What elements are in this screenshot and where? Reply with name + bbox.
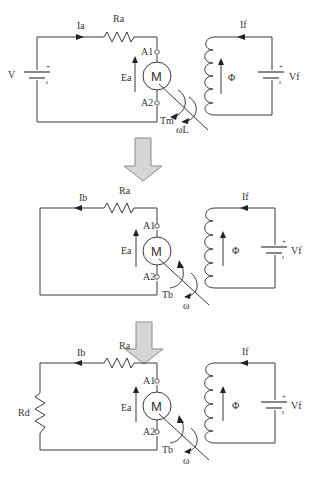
torque-arc-icon (176, 90, 185, 116)
label-field-current: If (242, 346, 249, 357)
label-motor: M (151, 69, 162, 84)
armature-resistor (104, 32, 134, 42)
label-braking-resistor: Rd (18, 407, 30, 418)
terminal-a2 (155, 101, 159, 105)
label-armature-resistor: Ra (119, 185, 131, 196)
label-source-plus: + (46, 63, 50, 71)
label-torque: Tb (162, 444, 173, 455)
label-flux: Φ (232, 245, 239, 256)
label-source-voltage: V (8, 69, 16, 80)
stage-braking: Ib Ra Ea A1 A2 M Tb ω If Φ Vf + ı (40, 185, 302, 311)
terminal-a1 (155, 379, 159, 383)
label-field-plus: + (282, 238, 286, 246)
current-arrow-icon (74, 205, 82, 211)
label-terminal-a1: A1 (143, 220, 155, 231)
label-field-source: Vf (291, 245, 302, 256)
label-emf: Ea (121, 72, 132, 83)
label-speed: ω (183, 300, 190, 311)
label-flux: Φ (232, 400, 239, 411)
label-field-source: Vf (289, 71, 300, 82)
label-terminal-a1: A1 (143, 375, 155, 386)
label-terminal-a2: A2 (143, 426, 155, 437)
label-emf: Ea (121, 402, 132, 413)
terminal-a2 (155, 430, 159, 434)
label-armature-current: Ib (79, 192, 87, 203)
label-field-minus: ı (282, 253, 284, 261)
label-field-minus: ı (279, 78, 281, 86)
label-field-plus: + (279, 63, 283, 71)
label-field-minus: ı (282, 408, 284, 416)
label-terminal-a1: A1 (141, 46, 153, 57)
current-arrow-icon (76, 34, 84, 40)
label-motor: M (151, 399, 162, 414)
armature-resistor (104, 203, 134, 213)
field-coil (205, 37, 215, 115)
field-circuit (205, 360, 287, 443)
field-circuit (205, 205, 287, 288)
transition-arrow-icon (124, 138, 162, 181)
braking-resistor (35, 393, 45, 433)
label-speed: ω (183, 455, 190, 466)
label-motor: M (151, 244, 162, 259)
field-current-arrow-icon (240, 360, 248, 366)
field-current-arrow-icon (237, 34, 245, 40)
label-field-plus: + (282, 393, 286, 401)
label-terminal-a2: A2 (141, 97, 153, 108)
label-torque: Tb (162, 289, 173, 300)
label-source-minus: ı (46, 78, 48, 86)
circuit-diagram: Ia Ra V + ı Ea A1 A2 M Tm ωL If Φ Vf + ı (0, 0, 313, 502)
field-circuit (205, 34, 284, 115)
label-field-current: If (240, 19, 247, 30)
label-armature-resistor: Ra (113, 13, 125, 24)
label-armature-current: Ia (77, 20, 85, 31)
label-terminal-a2: A2 (143, 271, 155, 282)
terminal-a1 (155, 224, 159, 228)
label-field-source: Vf (291, 400, 302, 411)
terminal-a2 (155, 275, 159, 279)
armature-circuit (24, 32, 208, 130)
terminal-a1 (155, 50, 159, 54)
label-field-current: If (242, 191, 249, 202)
stage-dynamic-braking: Rd Ib Ra Ea A1 A2 M Tb ω If Φ Vf + ı (18, 340, 302, 466)
label-speed: ωL (176, 124, 189, 135)
field-coil (205, 208, 215, 288)
transition-arrow-icon (125, 322, 163, 364)
armature-resistor (104, 358, 134, 368)
label-emf: Ea (121, 245, 132, 256)
label-armature-current: Ib (77, 347, 85, 358)
stage-motoring: Ia Ra V + ı Ea A1 A2 M Tm ωL If Φ Vf + ı (8, 13, 300, 135)
field-coil (205, 363, 215, 443)
current-arrow-icon (74, 360, 82, 366)
label-torque: Tm (160, 115, 174, 126)
label-armature-resistor: Ra (119, 340, 131, 351)
label-flux: Φ (228, 72, 235, 83)
field-current-arrow-icon (240, 205, 248, 211)
